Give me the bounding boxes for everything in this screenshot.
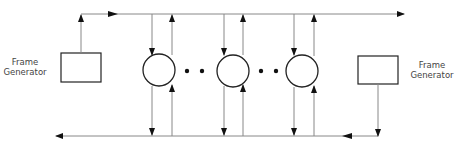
ellipsis-dots-2 — [259, 69, 278, 73]
right-frame-generator — [358, 56, 398, 136]
left-generator-label: Frame Generator — [2, 57, 48, 77]
right-generator-label: Frame Generator — [408, 60, 456, 80]
node-1 — [143, 14, 175, 136]
node-2 — [217, 14, 249, 136]
ellipsis-dots-1 — [185, 69, 204, 73]
node-3 — [286, 14, 318, 136]
bottom-bus — [56, 133, 378, 139]
diagram-canvas — [0, 0, 457, 149]
left-generator-label-line1: Frame — [2, 57, 48, 67]
arrow-left-icon — [342, 133, 352, 139]
arrow-right-icon — [108, 11, 118, 17]
left-generator-label-line2: Generator — [2, 67, 48, 77]
right-generator-label-line2: Generator — [408, 70, 456, 80]
right-generator-label-line1: Frame — [408, 60, 456, 70]
left-frame-generator — [61, 15, 101, 82]
